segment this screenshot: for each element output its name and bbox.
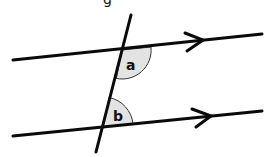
angle-b-label: b xyxy=(113,108,123,124)
transversal-line xyxy=(96,15,131,152)
parallel-lines-diagram: g a b xyxy=(0,0,271,157)
bottom-parallel-line xyxy=(13,111,262,136)
cut-off-title: g xyxy=(103,0,112,7)
angle-a-label: a xyxy=(126,57,135,73)
